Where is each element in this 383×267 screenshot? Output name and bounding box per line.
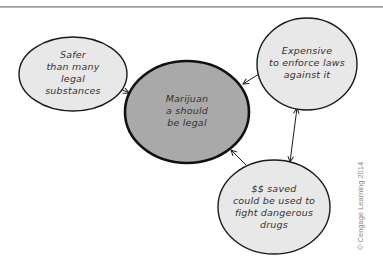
text-line: substances (23, 85, 123, 97)
text-line: Safer (23, 49, 123, 61)
node-marijuana-legal-label: Marijuan a should be legal (142, 93, 232, 129)
node-safer-label: Safer than many legal substances (23, 49, 123, 97)
text-line: could be used to (222, 195, 326, 207)
text-line: Expensive (258, 45, 356, 57)
edge-expensive-to-center (243, 74, 259, 84)
edge-expensive-savings-bidirectional (290, 108, 297, 162)
node-money-saved-label: $$ saved could be used to fight dangerou… (222, 183, 326, 231)
text-line: fight dangerous (222, 207, 326, 219)
copyright-notice: © Cengage Learning 2014 (356, 162, 365, 250)
text-line: Marijuan (142, 93, 232, 105)
text-line: to enforce laws (258, 57, 356, 69)
text-line: be legal (142, 117, 232, 129)
text-line: $$ saved (222, 183, 326, 195)
text-line: legal (23, 73, 123, 85)
node-expensive-label: Expensive to enforce laws against it (258, 45, 356, 81)
text-line: a should (142, 105, 232, 117)
edge-savings-to-center (231, 150, 246, 165)
text-line: drugs (222, 219, 326, 231)
text-line: than many (23, 61, 123, 73)
text-line: against it (258, 69, 356, 81)
